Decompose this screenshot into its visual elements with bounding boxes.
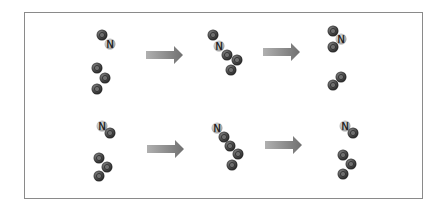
top-row-intermediate: N (208, 30, 243, 76)
nitrogen-label: N (98, 121, 105, 132)
oxygen-atom-core (235, 151, 240, 156)
nitrogen-label: N (215, 41, 222, 52)
reaction-arrow-icon (265, 136, 302, 154)
nitrogen-label: N (106, 39, 113, 50)
oxygen-atom-core (94, 86, 99, 91)
oxygen-atom-core (338, 74, 343, 79)
top-row-reactants: N (92, 30, 116, 95)
reaction-arrow-icon (146, 46, 183, 64)
oxygen-atom-core (99, 32, 104, 37)
oxygen-atom-core (330, 44, 335, 49)
oxygen-atom-core (210, 32, 215, 37)
oxygen-atom-core (330, 28, 335, 33)
nitrogen-label: N (213, 123, 220, 134)
oxygen-atom-core (96, 173, 101, 178)
oxygen-atom-core (234, 57, 239, 62)
oxygen-atom-core (224, 52, 229, 57)
oxygen-atom-core (96, 155, 101, 160)
oxygen-atom-core (340, 152, 345, 157)
bottom-row-intermediate: N (212, 123, 244, 171)
reaction-diagram: NNNNNN (0, 0, 446, 207)
oxygen-atom-core (221, 134, 226, 139)
nitrogen-label: N (337, 34, 344, 45)
oxygen-atom-core (107, 130, 112, 135)
reaction-arrow-icon (147, 140, 184, 158)
oxygen-atom-core (227, 143, 232, 148)
atoms-layer: NNNNNN (92, 26, 359, 182)
oxygen-atom-core (330, 82, 335, 87)
oxygen-atom-core (228, 67, 233, 72)
oxygen-atom-core (104, 164, 109, 169)
oxygen-atom-core (229, 162, 234, 167)
oxygen-atom-core (102, 75, 107, 80)
oxygen-atom-core (94, 65, 99, 70)
oxygen-atom-core (350, 130, 355, 135)
bottom-row-reactants: N (94, 121, 116, 182)
bottom-row-products: N (338, 121, 359, 180)
nitrogen-label: N (341, 121, 348, 132)
top-row-products: N (328, 26, 347, 91)
oxygen-atom-core (348, 161, 353, 166)
reaction-arrow-icon (263, 43, 300, 61)
oxygen-atom-core (340, 171, 345, 176)
